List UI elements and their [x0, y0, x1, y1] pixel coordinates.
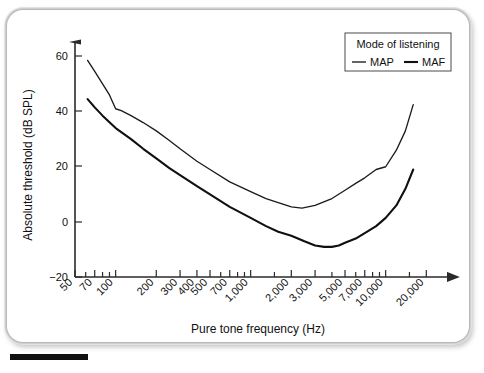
x-tick-label: 200: [134, 276, 155, 297]
y-tick-label: 0: [62, 216, 68, 228]
legend: Mode of listening MAP MAF: [345, 33, 451, 71]
x-tick-label: 20,000: [393, 276, 425, 308]
x-tick-marks: [75, 270, 426, 277]
x-tick-labels: 50701002003004005007001,0002,0003,0005,0…: [57, 276, 425, 308]
y-tick-label: 60: [56, 50, 68, 62]
caption-rule: [10, 354, 88, 360]
legend-label-map: MAP: [370, 56, 394, 68]
x-tick-label: 3,000: [287, 276, 315, 304]
x-axis-title: Pure tone frequency (Hz): [191, 322, 325, 336]
x-tick-label: 100: [94, 276, 115, 297]
chart-canvas: 60 40 20 0 −20 50701002003004005007001,0…: [0, 0, 484, 373]
figure-root: 60 40 20 0 −20 50701002003004005007001,0…: [0, 0, 484, 373]
legend-label-maf: MAF: [422, 56, 446, 68]
y-axis-title: Absolute threshold (dB SPL): [21, 89, 35, 240]
y-tick-labels: 60 40 20 0 −20: [49, 50, 68, 283]
x-tick-label: 70: [77, 276, 94, 293]
y-tick-label: 40: [56, 105, 68, 117]
y-tick-label: 20: [56, 160, 68, 172]
legend-title: Mode of listening: [356, 38, 439, 50]
x-tick-label: 500: [188, 276, 209, 297]
x-tick-label: 2,000: [263, 276, 291, 304]
x-tick-label: 1,000: [222, 276, 250, 304]
series-line-maf: [88, 99, 414, 247]
series-line-map: [88, 60, 414, 208]
y-tick-marks: [75, 56, 82, 277]
